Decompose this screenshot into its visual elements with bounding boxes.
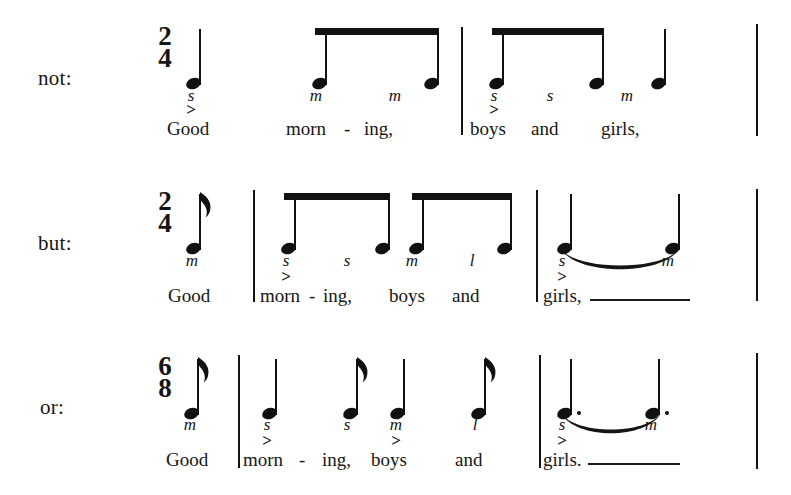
time-signature-2-4: 2 4 [152,190,178,234]
solfa-syllable: m [179,251,205,271]
note-eighth-beamed [375,192,409,254]
lyric-syllable: boys [389,285,425,307]
note-stem [199,29,201,85]
note-stem [325,29,327,85]
lyric-syllable: boys [470,118,506,140]
note-eighth [343,357,377,419]
lyric-syllable: morn [286,118,326,140]
note-quarter [186,27,220,89]
note-quarter [651,27,685,89]
time-signature-denominator: 8 [152,377,178,399]
note-eighth-beamed [312,27,346,89]
note-dotted-quarter [645,357,679,419]
accent-mark: > [386,431,406,451]
system-but: but: 2 4 [0,165,791,335]
note-flag [357,357,370,383]
note-flag [485,357,498,383]
note-quarter [557,192,591,254]
note-stem [602,29,604,85]
lyric-syllable: and [531,118,558,140]
note-eighth-beamed [497,192,531,254]
lyric-extension-line [588,463,680,465]
lyric-syllable: boys [371,449,407,471]
note-eighth [186,192,220,254]
accent-mark: > [181,100,201,120]
augmentation-dot [665,411,669,415]
note-eighth-beamed [281,192,315,254]
note-flag [200,192,213,218]
note-stem [422,194,424,250]
barline [461,27,463,135]
barline [253,190,255,302]
final-barline [756,353,758,469]
solfa-syllable: m [638,415,664,435]
solfa-syllable: m [303,86,329,106]
barline [238,355,240,468]
note-eighth [471,357,505,419]
accent-mark: > [257,431,277,451]
note-stem [570,359,572,415]
note-stem [275,359,277,415]
final-barline [756,24,758,136]
accent-mark: > [552,431,572,451]
solfa-syllable: l [459,251,485,271]
solfa-syllable: m [177,415,203,435]
note-stem [570,194,572,250]
lyric-syllable: Good [166,449,208,471]
solfa-syllable: s [537,86,563,106]
lyric-syllable: girls. [543,449,582,471]
lyric-syllable: morn [260,285,300,307]
lyric-hyphen: - [299,449,305,471]
final-barline [756,189,758,301]
solfa-syllable: m [614,86,640,106]
lyric-syllable: and [452,285,479,307]
note-stem [437,29,439,85]
note-stem [510,194,512,250]
note-eighth-beamed [424,27,458,89]
lyric-syllable: Good [168,285,210,307]
lyric-syllable: girls, [543,285,582,307]
note-stem [403,359,405,415]
note-stem [502,29,504,85]
note-eighth-beamed [409,192,443,254]
lyric-hyphen: - [344,118,350,140]
barline [539,355,541,468]
lyric-syllable: Good [167,118,209,140]
solfa-syllable: m [399,251,425,271]
barline [536,190,538,302]
system-label-or: or: [40,395,64,420]
lyric-syllable: ing, [322,449,351,471]
lyric-syllable: morn [243,449,283,471]
lyric-hyphen: - [309,285,315,307]
note-stem [678,194,680,250]
note-eighth-beamed [589,27,623,89]
solfa-syllable: m [382,86,408,106]
note-quarter [390,357,424,419]
note-eighth [184,357,218,419]
accent-mark: > [552,267,572,287]
accent-mark: > [484,100,504,120]
system-label-not: not: [38,66,72,91]
time-signature-6-8: 6 8 [152,355,178,399]
time-signature-denominator: 4 [152,212,178,234]
note-dotted-quarter [557,357,591,419]
note-stem [388,194,390,250]
note-stem [294,194,296,250]
note-stem [658,359,660,415]
lyric-syllable: and [455,449,482,471]
solfa-syllable: s [334,415,360,435]
solfa-syllable: l [462,415,488,435]
note-stem [664,29,666,85]
lyric-extension-line [590,299,690,301]
solfa-syllable: m [655,251,681,271]
note-quarter [665,192,699,254]
note-quarter [262,357,296,419]
note-flag [198,357,211,383]
accent-mark: > [276,267,296,287]
solfa-syllable: s [334,251,360,271]
lyric-syllable: ing, [364,118,393,140]
system-or: or: 6 8 [0,335,791,495]
system-label-but: but: [38,231,72,256]
lyric-syllable: girls, [601,118,640,140]
time-signature-denominator: 4 [152,47,178,69]
